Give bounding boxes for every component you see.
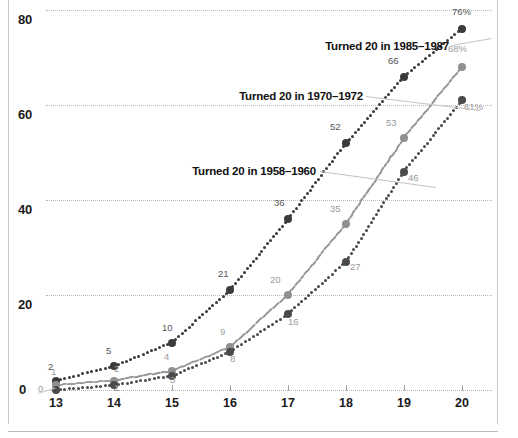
series-2-trail-dot [420,149,423,152]
gridline-60 [46,105,492,106]
series-0-trail-dot [240,275,243,278]
series-2-trail-dot [99,385,102,388]
series-0-trail-dot [208,307,211,310]
series-0-value-label-17: 36 [274,197,285,208]
series-2-trail-dot [139,379,142,382]
series-2-trail-dot [355,245,358,248]
series-2-trail-dot [327,276,330,279]
series-0-trail-dot [351,135,354,138]
series-1-point-19[interactable] [400,134,408,142]
series-0-trail-dot [260,250,263,253]
series-2-trail-dot [135,380,138,383]
series-2-trail-dot [121,382,124,385]
series-2-trail-dot [126,382,129,385]
series-2-trail-dot [446,117,449,120]
series-0-trail-dot [269,239,272,242]
series-1-point-17[interactable] [284,291,292,299]
series-0-trail-dot [357,128,360,131]
series-0-trail-dot [246,267,249,270]
series-2-trail-dot [331,273,334,276]
series-0-trail-dot [372,110,375,113]
series-0-trail-dot [363,121,366,124]
series-0-point-15[interactable] [168,339,176,347]
series-0-trail-dot [275,232,278,235]
series-2-trail-dot [352,248,355,251]
series-2-point-19[interactable] [400,168,408,176]
x-tick-mark-20 [462,385,463,391]
series-2-trail-dot [392,186,395,189]
chart-root: 80604020131415161718192025102136526676%1… [0,0,518,438]
series-0-trail-dot [158,346,161,349]
series-0-trail-dot [375,107,378,110]
series-0-trail-dot [450,36,453,39]
series-0-point-17[interactable] [284,215,292,223]
series-0-trail-dot [369,114,372,117]
series-2-trail-dot [317,285,320,288]
series-2-trail-dot [157,376,160,379]
series-0-trail-dot [218,298,221,301]
x-tick-mark-15 [172,385,173,391]
x-axis-tick-18: 18 [331,396,361,410]
series-2-trail-dot [81,386,84,389]
series-0-trail-dot [215,301,218,304]
series-0-trail-dot [424,57,427,60]
series-0-point-19[interactable] [400,73,408,81]
series-2-trail-dot [216,356,219,359]
series-0-trail-dot [234,282,237,285]
series-2-trail-dot [77,387,80,390]
series-2-trail-dot [162,376,165,379]
series-0-trail-dot [95,369,98,372]
series-2-trail-dot [252,335,255,338]
series-2-trail-dot [191,366,194,369]
x-axis-tick-19: 19 [389,396,419,410]
series-2-trail-dot [408,163,411,166]
series-0-trail-dot [266,242,269,245]
series-1-point-20[interactable] [458,63,466,71]
series-0-trail-dot [191,323,194,326]
series-0-trail-dot [298,203,301,206]
series-2-value-label-15: 3 [170,374,175,385]
x-tick-mark-18 [346,385,347,391]
series-0-value-label-16: 21 [218,268,229,279]
series-0-trail-dot [184,329,187,332]
series-2-trail-dot [434,131,437,134]
series-0-trail-dot [162,344,165,347]
series-2-trail-dot [437,127,440,130]
series-2-trail-dot [432,134,435,137]
series-0-trail-dot [328,163,331,166]
y-axis-tick-60: 60 [18,107,48,122]
series-1-value-label-17: 20 [270,274,281,285]
series-2-trail-dot [256,333,259,336]
series-0-point-20[interactable] [458,25,466,33]
series-1-trail-dot [386,159,391,164]
series-2-point-18[interactable] [342,258,350,266]
series-2-trail-dot [338,266,341,269]
series-2-trail-dot [397,178,400,181]
series-2-trail-dot [95,385,98,388]
series-0-trail-dot [317,178,320,181]
axis-baseline [46,390,492,391]
series-2-trail-dot [297,303,300,306]
series-0-point-16[interactable] [226,286,234,294]
series-2-trail-dot [350,252,353,255]
series-2-trail-dot [271,323,274,326]
series-2-trail-dot [267,325,270,328]
series-0-trail-dot [188,326,191,329]
series-1-point-18[interactable] [342,220,350,228]
series-2-trail-dot [423,145,426,148]
series-0-trail-dot [81,372,84,375]
series-0-trail-dot [320,174,323,177]
series-2-trail-dot [411,159,414,162]
series-0-trail-dot [154,348,157,351]
series-0-trail-dot [129,358,132,361]
series-2-trail-dot [390,190,393,193]
series-0-trail-dot [387,93,390,96]
series-2-trail-dot [334,269,337,272]
series-2-trail-dot [449,113,452,116]
series-0-trail-dot [278,228,281,231]
series-0-trail-dot [194,319,197,322]
series-0-point-18[interactable] [342,139,350,147]
series-0-value-label-14: 5 [106,345,111,356]
series-0-trail-dot [72,375,75,378]
series-2-trail-dot [244,340,247,343]
